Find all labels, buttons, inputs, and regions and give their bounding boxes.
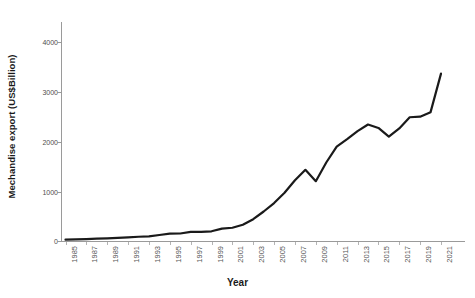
line-chart-figure: Mechandise export (US$Billion) 4000 3000… xyxy=(0,0,475,298)
x-tick-label-2003: 2003 xyxy=(257,246,267,276)
x-tick-mark-2013 xyxy=(358,242,359,245)
x-tick-label-2007: 2007 xyxy=(299,246,309,276)
x-tick-label-2005: 2005 xyxy=(278,246,288,276)
x-tick-mark-2015 xyxy=(378,242,379,245)
x-tick-mark-1989 xyxy=(107,242,108,245)
x-tick-label-2011: 2011 xyxy=(341,246,351,276)
x-tick-mark-1999 xyxy=(212,242,213,245)
x-tick-mark-1987 xyxy=(86,242,87,245)
x-tick-label-1995: 1995 xyxy=(174,246,184,276)
x-tick-mark-1997 xyxy=(191,242,192,245)
x-tick-label-1985: 1985 xyxy=(70,246,80,276)
x-tick-label-2015: 2015 xyxy=(382,246,392,276)
x-tick-label-2009: 2009 xyxy=(320,246,330,276)
x-tick-label-2021: 2021 xyxy=(445,246,455,276)
x-tick-label-1999: 1999 xyxy=(216,246,226,276)
x-tick-mark-2011 xyxy=(337,242,338,245)
x-tick-mark-2007 xyxy=(295,242,296,245)
x-tick-mark-1985 xyxy=(66,242,67,245)
x-axis-title: Year xyxy=(0,277,475,288)
x-tick-label-2001: 2001 xyxy=(236,246,246,276)
x-tick-mark-2021 xyxy=(441,242,442,245)
x-tick-label-2013: 2013 xyxy=(362,246,372,276)
x-tick-label-2019: 2019 xyxy=(424,246,434,276)
x-tick-mark-2009 xyxy=(316,242,317,245)
x-tick-mark-2019 xyxy=(420,242,421,245)
x-tick-mark-2017 xyxy=(399,242,400,245)
x-tick-label-1993: 1993 xyxy=(153,246,163,276)
x-tick-label-1991: 1991 xyxy=(132,246,142,276)
x-tick-mark-1991 xyxy=(128,242,129,245)
x-tick-mark-2003 xyxy=(253,242,254,245)
x-tick-label-1989: 1989 xyxy=(111,246,121,276)
x-tick-label-1997: 1997 xyxy=(195,246,205,276)
x-tick-mark-1995 xyxy=(170,242,171,245)
x-tick-label-2017: 2017 xyxy=(403,246,413,276)
x-tick-mark-2005 xyxy=(274,242,275,245)
x-tick-mark-2001 xyxy=(232,242,233,245)
data-series-line xyxy=(66,74,442,240)
x-tick-mark-1993 xyxy=(149,242,150,245)
x-tick-label-1987: 1987 xyxy=(90,246,100,276)
